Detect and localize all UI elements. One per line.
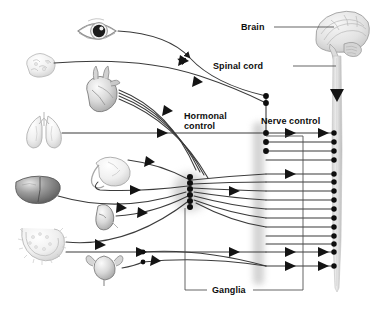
nerve-path-bladder bbox=[122, 262, 143, 268]
arrowhead-chain-mid bbox=[229, 186, 240, 196]
nerve-path-sacral bbox=[143, 260, 266, 266]
label-brain: Brain bbox=[241, 22, 265, 33]
node-ganglion-4 bbox=[187, 192, 193, 198]
node-ganglion-5 bbox=[187, 198, 193, 204]
node-cranial-5 bbox=[263, 148, 269, 154]
node-cord-13 bbox=[331, 241, 336, 246]
node-sacral-2 bbox=[141, 260, 146, 265]
diagram-canvas: Brain Spinal cord Hormonal control Nerve… bbox=[0, 0, 372, 320]
node-cord-4 bbox=[331, 157, 336, 162]
arrowhead-group bbox=[95, 55, 344, 271]
arrowhead-kidney bbox=[137, 207, 148, 218]
arrowhead-cord-mid-a bbox=[285, 169, 296, 179]
node-cranial-3 bbox=[263, 130, 269, 136]
node-cord-5 bbox=[331, 171, 336, 176]
label-hormonal-control-line1: Hormonal bbox=[184, 111, 227, 122]
node-cord-11 bbox=[331, 224, 336, 229]
nerve-path-stomach-top bbox=[128, 160, 190, 180]
node-sacral-1 bbox=[141, 250, 146, 255]
nerve-path-liver bbox=[58, 192, 186, 204]
node-ganglion-1 bbox=[187, 174, 193, 180]
nerve-path-intestines bbox=[66, 200, 190, 243]
node-ganglion-6 bbox=[187, 204, 193, 210]
label-nerve-control: Nerve control bbox=[261, 116, 320, 127]
arrowhead-cord-sacral-a bbox=[285, 261, 296, 271]
arrowhead-cord-bot-a bbox=[285, 247, 296, 257]
node-ganglion-2 bbox=[187, 180, 193, 186]
node-cord-10 bbox=[331, 215, 336, 220]
node-cord-9 bbox=[331, 206, 336, 211]
arrowhead-heart bbox=[162, 105, 173, 116]
node-cord-2 bbox=[331, 139, 336, 144]
arrowhead-cord-top-b bbox=[318, 128, 329, 138]
nerve-path-stomach-bottom bbox=[95, 182, 188, 191]
arrowhead-cord-top-a bbox=[285, 128, 296, 138]
nerve-path-kidney bbox=[116, 196, 188, 216]
arrowhead-cord-bot-b bbox=[318, 247, 329, 257]
node-cord-3 bbox=[331, 148, 336, 153]
node-cord-6 bbox=[331, 179, 336, 184]
label-ganglia: Ganglia bbox=[212, 285, 246, 296]
ganglion-to-cord-7 bbox=[196, 203, 266, 227]
ganglion-to-cord-6 bbox=[194, 200, 266, 218]
label-hormonal-control-line2: control bbox=[184, 121, 215, 132]
node-cord-7 bbox=[331, 188, 336, 193]
node-cord-15 bbox=[331, 263, 336, 268]
node-cord-14 bbox=[331, 249, 336, 254]
arrowhead-chain-low bbox=[229, 247, 240, 257]
arrowhead-stomach-bottom bbox=[130, 185, 141, 195]
arrowhead-cord-sacral-b bbox=[318, 261, 329, 271]
label-spinal-cord: Spinal cord bbox=[213, 61, 263, 72]
nerve-pathway-layer bbox=[0, 0, 372, 320]
arrowhead-lungs bbox=[157, 128, 168, 138]
node-cord-1 bbox=[331, 130, 336, 135]
ganglion-to-cord-1 bbox=[192, 174, 266, 180]
arrowhead-descending bbox=[330, 89, 344, 102]
node-cranial-2 bbox=[263, 100, 269, 106]
arrowhead-salivary bbox=[192, 76, 203, 87]
node-cord-12 bbox=[331, 233, 336, 238]
node-cranial-1 bbox=[263, 93, 269, 99]
arrowhead-eye bbox=[178, 55, 189, 66]
arrowhead-bladder bbox=[150, 255, 161, 266]
ganglion-to-cord-2 bbox=[192, 182, 266, 184]
node-ganglion-3 bbox=[187, 186, 193, 192]
node-cord-8 bbox=[331, 197, 336, 202]
node-cranial-4 bbox=[263, 139, 269, 145]
